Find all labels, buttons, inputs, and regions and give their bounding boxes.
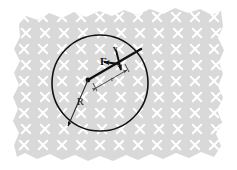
physics-diagram-svg bbox=[0, 0, 237, 170]
velocity-label: v bbox=[113, 44, 118, 53]
big-radius-label: R bbox=[77, 97, 84, 107]
figure-canvas: F v R r bbox=[0, 0, 237, 170]
force-label: F bbox=[100, 56, 107, 67]
small-radius-label: r bbox=[111, 76, 113, 83]
magnetic-field-region bbox=[0, 0, 237, 170]
